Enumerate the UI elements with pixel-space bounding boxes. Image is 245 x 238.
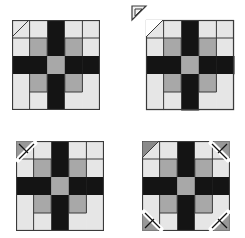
block-1-graphic (12, 20, 100, 110)
block-3-graphic (16, 141, 104, 231)
quilt-block-2 (146, 20, 234, 110)
quilt-block-1 (12, 20, 100, 110)
block-4-graphic (142, 141, 230, 231)
quilt-block-3 (16, 141, 104, 231)
quilt-block-4 (142, 141, 230, 231)
block-2-graphic (146, 20, 234, 110)
